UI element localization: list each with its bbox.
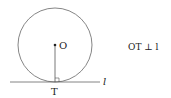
label-l: l: [103, 76, 106, 87]
relation-text: OT ⊥ l: [128, 42, 159, 52]
tangent-diagram: O T l OT ⊥ l: [0, 0, 171, 98]
right-angle-mark: [55, 78, 59, 82]
center-point: [54, 44, 57, 47]
label-t: T: [51, 86, 58, 97]
label-o: O: [59, 40, 67, 51]
